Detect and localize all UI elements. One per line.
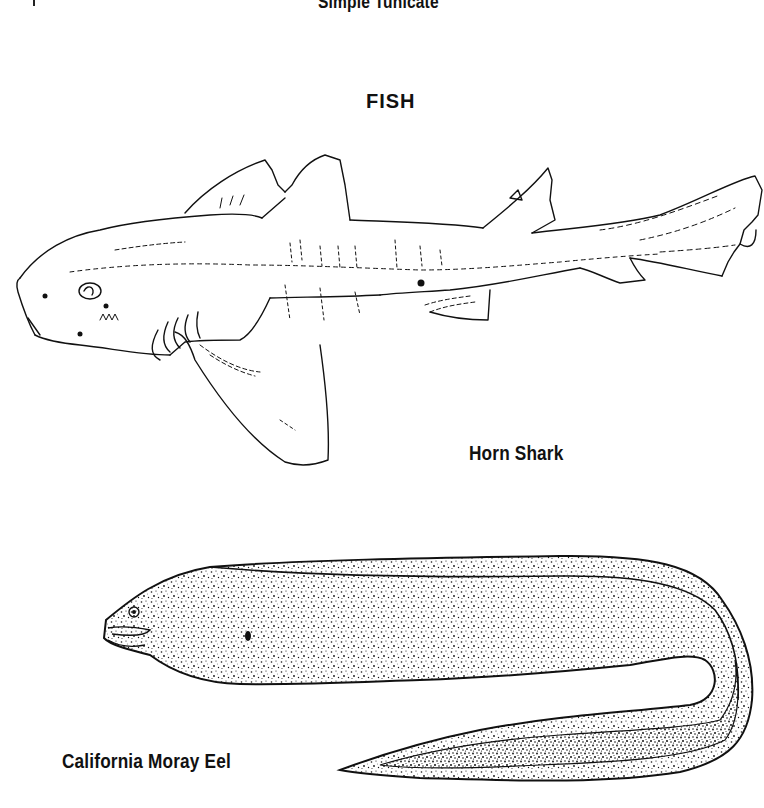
moray-eel-caption: California Moray Eel — [62, 749, 231, 773]
moray-eel-illustration — [0, 0, 764, 808]
